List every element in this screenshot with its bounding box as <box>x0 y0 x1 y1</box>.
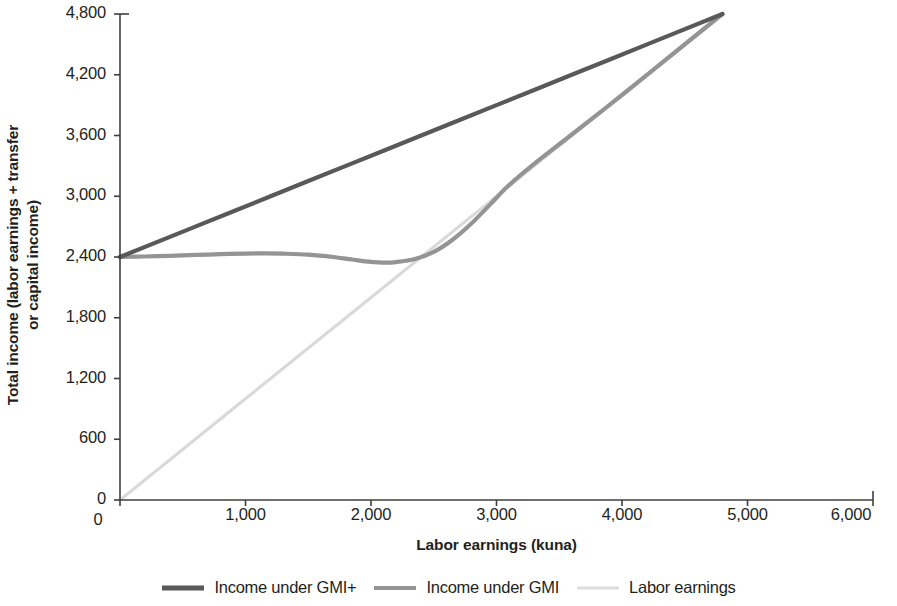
legend-label: Labor earnings <box>629 578 736 597</box>
legend-item[interactable]: Income under GMI+ <box>161 578 356 597</box>
y-axis-tick-label: 4,200 <box>38 64 106 83</box>
legend-item[interactable]: Labor earnings <box>576 578 736 597</box>
x-axis-tick-label: 6,000 <box>801 505 897 524</box>
x-axis-tick-label: 4,000 <box>572 505 672 524</box>
legend-label: Income under GMI <box>426 578 559 597</box>
x-axis-tick-label: 0 <box>48 510 148 529</box>
y-axis-tick-label: 2,400 <box>38 246 106 265</box>
x-axis-tick-label: 5,000 <box>698 505 798 524</box>
y-axis-tick-label: 4,800 <box>38 3 106 22</box>
series-line-income-under-gmi <box>120 14 722 257</box>
y-axis-tick-label: 1,200 <box>38 368 106 387</box>
legend-label: Income under GMI+ <box>214 578 356 597</box>
legend-swatch-line-icon <box>373 582 417 594</box>
legend-swatch-line-icon <box>576 582 620 594</box>
y-axis-tick-label: 1,800 <box>38 307 106 326</box>
legend-item[interactable]: Income under GMI <box>373 578 559 597</box>
x-axis-title: Labor earnings (kuna) <box>120 536 873 554</box>
y-axis-tick-label: 3,600 <box>38 125 106 144</box>
x-axis-tick-label: 2,000 <box>321 505 421 524</box>
y-axis-tick-label: 0 <box>38 489 106 508</box>
chart-legend: Income under GMI+Income under GMILabor e… <box>0 578 897 597</box>
chart-figure: Total income (labor earnings + transfer … <box>0 0 897 606</box>
x-axis-tick-label: 1,000 <box>196 505 296 524</box>
y-axis-tick-label: 600 <box>38 428 106 447</box>
y-axis-tick-label: 3,000 <box>38 185 106 204</box>
x-axis-tick-label: 3,000 <box>447 505 547 524</box>
legend-swatch-line-icon <box>161 582 205 594</box>
